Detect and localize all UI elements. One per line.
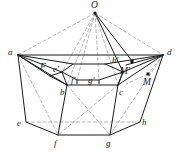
label-a: a [8,48,13,57]
point-marker-O [93,11,96,14]
label-c: c [119,88,123,97]
label-e: e [17,119,21,128]
label-b: b [60,88,65,97]
label-M: M [143,78,151,88]
dashed-edge-b-g [67,85,110,135]
dashed-edge-c-f [58,85,118,135]
label-F: F [40,63,46,73]
dashed-edge-O-fprime [77,13,95,80]
label-h: h [142,118,147,127]
dashed-edge-O-c [95,13,118,85]
label-h-prime: h' [112,56,118,65]
point-marker-M [147,73,150,76]
label-e-prime: e' [53,65,59,74]
label-d: d [167,48,172,57]
label-M-prime: M' [120,67,130,77]
solid-edge-c-g [110,85,118,135]
geometry-figure: O a d F e' h' M' M f' g' b c e f g h [0,0,185,168]
label-g-prime: g' [88,76,94,85]
solid-path-inner-top-back [62,64,123,72]
solid-edge-O-Mprime [95,13,132,61]
label-O: O [91,1,98,11]
dashed-edge-O-gprime [95,13,99,80]
label-f-prime: f' [71,76,75,85]
label-f: f [54,139,57,148]
label-g: g [106,139,111,148]
point-marker-Mprime [131,60,134,63]
